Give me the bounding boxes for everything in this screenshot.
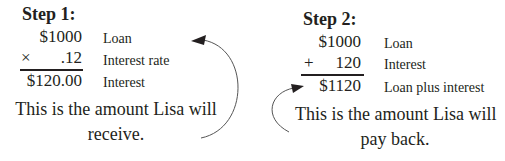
step1-curved-arrow-icon <box>191 35 238 138</box>
arrows-layer <box>0 0 505 161</box>
step2-curved-arrow-icon <box>272 84 304 132</box>
